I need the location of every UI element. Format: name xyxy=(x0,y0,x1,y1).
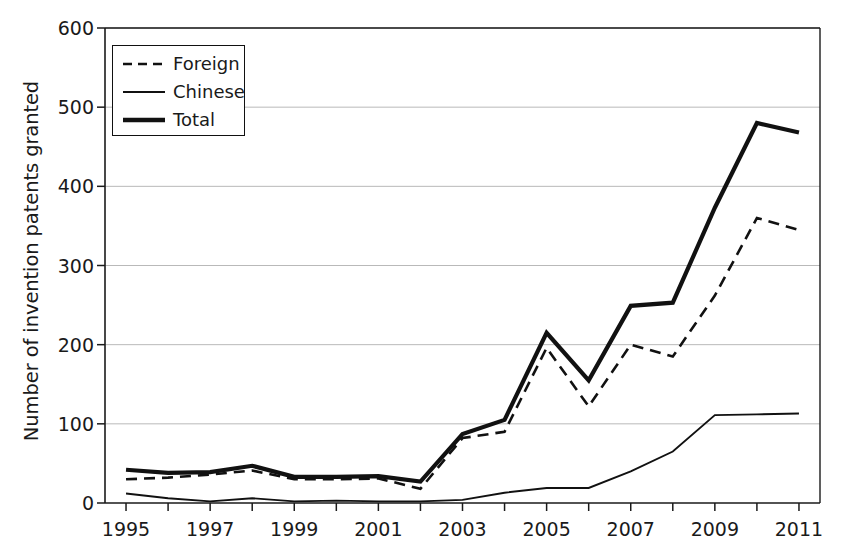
legend-item-foreign: Foreign xyxy=(122,50,240,78)
legend: Foreign Chinese Total xyxy=(112,45,245,136)
thin-line-swatch xyxy=(122,86,166,98)
series-line-total xyxy=(126,123,799,482)
legend-item-chinese: Chinese xyxy=(122,78,245,106)
series-line-chinese xyxy=(126,414,799,502)
chart-container: Number of invention patents granted 0100… xyxy=(0,0,841,555)
thick-line-swatch xyxy=(122,114,166,126)
legend-label-total: Total xyxy=(173,111,215,129)
series-line-foreign xyxy=(126,218,799,489)
legend-item-total: Total xyxy=(122,106,215,134)
data-series-layer xyxy=(126,123,799,501)
legend-label-chinese: Chinese xyxy=(173,83,245,101)
dashed-line-swatch xyxy=(122,58,166,70)
legend-label-foreign: Foreign xyxy=(173,55,240,73)
